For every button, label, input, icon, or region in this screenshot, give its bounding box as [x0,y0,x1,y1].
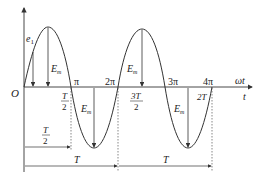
period-1-label: T [74,154,81,165]
tick-2T: 2T [197,92,208,102]
half-period-den: 2 [43,136,48,146]
tick-three-half-T-den: 2 [134,102,139,112]
tick-2pi: 2π [105,76,115,87]
t-axis-label: t [243,91,246,102]
tick-half-T-den: 2 [62,102,67,112]
emf-waveform-diagram: O e1 π 2π 3π 4π ωt t Em Em Em Em T 2 3T … [0,0,257,179]
half-period-num: T [43,125,49,135]
tick-half-T-num: T [62,91,68,101]
tick-4pi: 4π [203,76,213,87]
sine-curve [24,27,212,148]
waveform-svg: O e1 π 2π 3π 4π ωt t Em Em Em Em T 2 3T … [0,0,257,179]
period-2-label: T [163,154,170,165]
origin-label: O [11,87,19,99]
tick-three-half-T-num: 3T [130,91,142,101]
em-label-3: Em [126,63,138,75]
e1-label: e1 [26,33,34,46]
em-label-1: Em [50,63,62,75]
tick-pi: π [74,76,79,87]
tick-3pi: 3π [168,76,178,87]
em-label-4: Em [173,103,185,115]
em-label-2: Em [80,103,92,115]
omega-t-label: ωt [235,75,245,86]
